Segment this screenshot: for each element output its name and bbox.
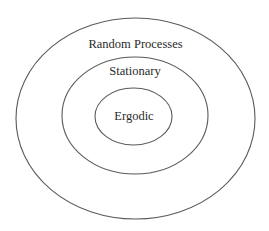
ergodic-label: Ergodic: [114, 109, 154, 123]
stationary-label: Stationary: [109, 64, 161, 78]
nested-sets-diagram: Random Processes Stationary Ergodic: [0, 0, 269, 231]
random-processes-label: Random Processes: [88, 37, 182, 51]
